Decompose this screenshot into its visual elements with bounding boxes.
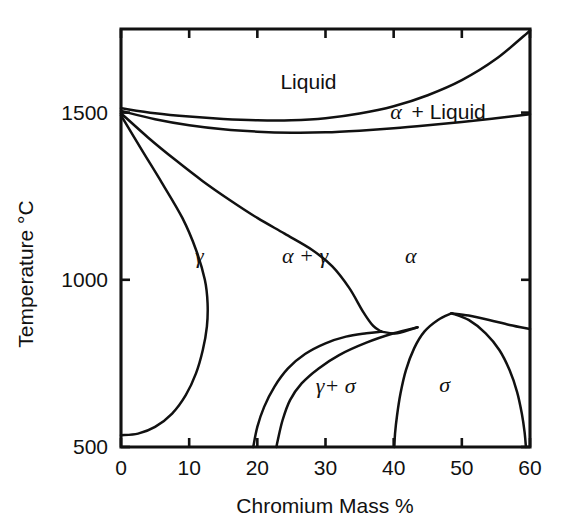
y-axis-tick-labels: 50010001500 (61, 101, 108, 458)
phase-region-label: Liquid (280, 70, 336, 93)
phase-region-label: α + γ (282, 243, 329, 268)
phase-boundary-alpha-sigma-boundary (452, 313, 530, 329)
x-tick-label: 20 (246, 456, 269, 479)
phase-boundary-gamma-loop-left (121, 115, 208, 435)
y-tick-label: 500 (73, 435, 108, 458)
plus-liquid-text: + Liquid (406, 100, 486, 123)
y-axis-title: Temperature °C (14, 200, 37, 347)
x-tick-label: 0 (115, 456, 127, 479)
x-tick-label: 50 (450, 456, 473, 479)
phase-region-label: σ (439, 372, 451, 397)
x-tick-label: 10 (177, 456, 200, 479)
x-tick-label: 60 (518, 456, 541, 479)
phase-boundary-eutectoid-tieline (381, 327, 417, 333)
y-tick-label: 1000 (61, 268, 108, 291)
phase-boundary-sigma-dome-right (452, 313, 526, 447)
phase-region-label: γ (195, 243, 205, 268)
phase-region-label: γ+ σ (316, 373, 357, 398)
y-tick-label: 1500 (61, 101, 108, 124)
x-tick-label: 30 (314, 456, 337, 479)
x-axis-tick-labels: 0102030405060 (115, 456, 542, 479)
x-axis-title: Chromium Mass % (236, 494, 413, 517)
phase-boundary-gamma-loop-right (121, 113, 381, 331)
x-tick-label: 40 (382, 456, 405, 479)
phase-diagram-figure: 0102030405060 50010001500 Liquidα + Liqu… (0, 0, 561, 525)
phase-region-label: α (405, 243, 417, 268)
alpha-glyph: α (390, 99, 402, 124)
phase-diagram-svg: 0102030405060 50010001500 Liquidα + Liqu… (0, 0, 561, 525)
